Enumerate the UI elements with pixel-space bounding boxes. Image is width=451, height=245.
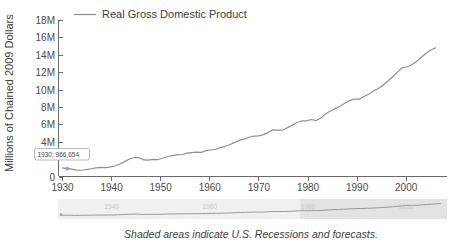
x-tick-2000: 2000 xyxy=(395,177,418,194)
range-navigator[interactable]: 1940 1960 1980 2000 xyxy=(58,199,447,219)
legend-label-gdp: Real Gross Domestic Product xyxy=(102,8,247,20)
x-tick-label-1930: 1930 xyxy=(51,182,74,193)
y-tick-label-4M: 4M xyxy=(41,137,55,148)
tooltip-label: 1930: 966,654 xyxy=(38,151,80,158)
y-tick-4M: 4M xyxy=(41,137,62,148)
data-point-tooltip[interactable]: 1930: 966,654 xyxy=(35,149,90,171)
chart-canvas: Millions of Chained 2009 Dollars Real Gr… xyxy=(0,0,451,245)
y-tick-label-14M: 14M xyxy=(36,50,55,61)
navigator-tick-label-2000: 2000 xyxy=(399,203,414,210)
gdp-line-chart: Millions of Chained 2009 Dollars Real Gr… xyxy=(0,0,451,245)
x-tick-label-1950: 1950 xyxy=(150,182,173,193)
navigator-marker xyxy=(60,214,62,216)
navigator-tick-label-1980: 1980 xyxy=(301,203,316,210)
y-tick-label-6M: 6M xyxy=(41,119,55,130)
x-tick-1970: 1970 xyxy=(248,177,271,194)
x-tick-1940: 1940 xyxy=(100,177,123,194)
chart-caption: Shaded areas indicate U.S. Recessions an… xyxy=(124,228,378,240)
chart-legend: Real Gross Domestic Product xyxy=(74,8,247,20)
data-point-marker[interactable] xyxy=(66,167,69,170)
navigator-tick-label-1960: 1960 xyxy=(203,203,218,210)
x-tick-label-1970: 1970 xyxy=(248,182,271,193)
y-tick-label-8M: 8M xyxy=(41,102,55,113)
y-tick-label-10M: 10M xyxy=(36,85,55,96)
navigator-tick-label-1940: 1940 xyxy=(104,203,119,210)
y-tick-6M: 6M xyxy=(41,119,62,130)
x-axis: 1930 1940 1950 1960 1970 1980 xyxy=(51,177,447,194)
series-line-gdp xyxy=(63,48,436,171)
navigator-shaded-region[interactable] xyxy=(300,199,447,219)
y-axis-title: Millions of Chained 2009 Dollars xyxy=(3,14,15,172)
x-tick-1960: 1960 xyxy=(199,177,222,194)
x-tick-1990: 1990 xyxy=(346,177,369,194)
x-tick-label-1990: 1990 xyxy=(346,182,369,193)
y-tick-label-0: 0 xyxy=(49,172,55,183)
x-tick-label-1960: 1960 xyxy=(199,182,222,193)
y-tick-8M: 8M xyxy=(41,102,62,113)
y-tick-label-18M: 18M xyxy=(36,15,55,26)
x-tick-1950: 1950 xyxy=(150,177,173,194)
y-tick-label-16M: 16M xyxy=(36,32,55,43)
x-tick-label-1980: 1980 xyxy=(297,182,320,193)
x-tick-1980: 1980 xyxy=(297,177,320,194)
y-tick-label-12M: 12M xyxy=(36,67,55,78)
x-tick-label-2000: 2000 xyxy=(395,182,418,193)
x-tick-label-1940: 1940 xyxy=(100,182,123,193)
